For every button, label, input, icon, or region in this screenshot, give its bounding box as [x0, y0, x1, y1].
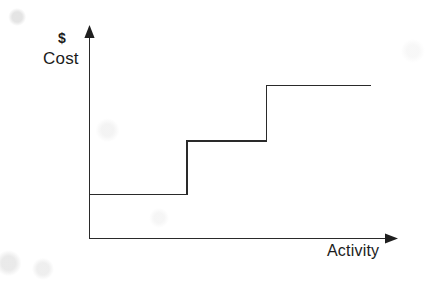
x-axis-arrowhead	[385, 233, 398, 243]
y-axis-arrowhead	[84, 25, 94, 38]
step-cost-curve	[89, 86, 371, 195]
y-axis-title-label: Cost	[43, 50, 79, 67]
figure-canvas: $ Cost Activity	[0, 0, 430, 283]
y-axis-unit-label: $	[58, 31, 66, 45]
x-axis-title-label: Activity	[327, 243, 379, 259]
